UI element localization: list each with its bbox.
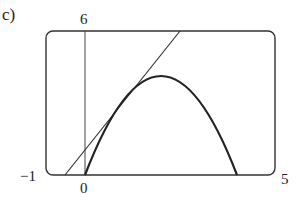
plot-area	[0, 0, 296, 205]
parabola-curve	[85, 76, 237, 175]
viewing-window-frame	[46, 31, 275, 175]
